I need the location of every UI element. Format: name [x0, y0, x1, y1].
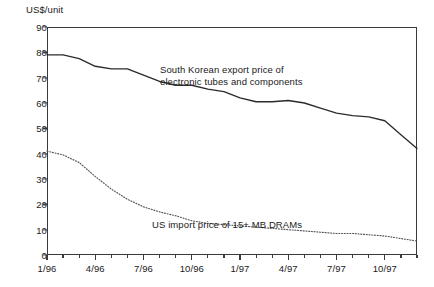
- x-axis-tick-label: 7/96: [134, 263, 153, 274]
- x-axis-tick-mark: [416, 255, 417, 258]
- chart-container: US$/unit 0102030405060708090 South Korea…: [0, 0, 434, 287]
- x-axis-tick-mark: [239, 255, 240, 260]
- x-axis-tick-mark: [111, 255, 112, 258]
- x-axis-tick-mark: [127, 255, 128, 258]
- x-axis-tick-mark: [288, 255, 289, 260]
- x-axis-tick-label: 1/96: [38, 263, 57, 274]
- x-axis-tick-mark: [79, 255, 80, 258]
- x-axis-tick-mark: [256, 255, 257, 258]
- x-axis-tick-mark: [223, 255, 224, 258]
- x-axis-tick-mark: [191, 255, 192, 260]
- x-axis-tick-mark: [352, 255, 353, 258]
- x-axis-tick-mark: [400, 255, 401, 258]
- x-axis-tick-label: 4/96: [86, 263, 105, 274]
- x-axis-tick-mark: [304, 255, 305, 258]
- x-axis-tick-mark: [46, 255, 47, 260]
- annotation-south-korean-export-price: South Korean export price of electronic …: [160, 64, 303, 87]
- x-axis-tick-mark: [384, 255, 385, 260]
- x-axis-tick-mark: [207, 255, 208, 258]
- series-layer: [0, 0, 434, 287]
- x-axis-tick-label: 10/96: [180, 263, 204, 274]
- x-axis-tick-mark: [159, 255, 160, 258]
- annotation-us-import-price-drams: US import price of 15+ MB DRAMs: [152, 219, 302, 231]
- x-axis-tick-mark: [336, 255, 337, 260]
- x-axis-tick-label: 4/97: [279, 263, 298, 274]
- x-axis-tick-label: 10/97: [373, 263, 397, 274]
- x-axis-tick-mark: [368, 255, 369, 258]
- x-axis-tick-label: 7/97: [327, 263, 346, 274]
- x-axis-tick-label: 1/97: [231, 263, 250, 274]
- x-axis-tick-mark: [272, 255, 273, 258]
- x-axis-tick-mark: [95, 255, 96, 260]
- x-axis-tick-mark: [62, 255, 63, 258]
- x-axis-tick-mark: [175, 255, 176, 258]
- x-axis-tick-mark: [143, 255, 144, 260]
- x-axis-tick-mark: [320, 255, 321, 258]
